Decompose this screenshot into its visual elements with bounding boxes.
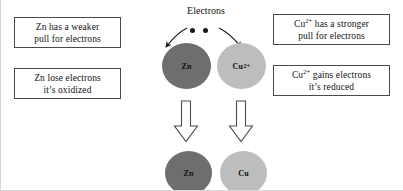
textbox-line: Zn has a weaker (36, 21, 99, 33)
textbox-zn-lose-electrons: Zn lose electrons it’s oxidized (14, 68, 121, 99)
circle-zn-ion-top: Zn (162, 43, 211, 89)
textbox-line: it’s reduced (309, 81, 354, 93)
textbox-formula: Cu (294, 19, 305, 29)
textbox-text: gains electrons (310, 70, 371, 80)
textbox-line: pull for electrons (298, 30, 365, 42)
electrons-label: Electrons (168, 5, 244, 16)
textbox-line: Cu2+ gains electrons (292, 69, 371, 81)
textbox-line: pull for electrons (34, 33, 101, 45)
textbox-text: has a stronger (312, 19, 369, 29)
textbox-line: Cu2+ has a stronger (294, 18, 369, 30)
atom-label: Cu (238, 169, 249, 178)
textbox-line: it’s oxidized (43, 84, 91, 96)
down-block-arrow-zn (173, 100, 199, 143)
textbox-formula: Cu (292, 70, 303, 80)
textbox-line: Zn lose electrons (34, 72, 101, 84)
textbox-cu-stronger-pull: Cu2+ has a stronger pull for electrons (273, 14, 390, 45)
atom-label: Zn (181, 62, 191, 71)
circle-cu-metal: Cu (220, 151, 267, 191)
atom-label: Zn (183, 169, 193, 178)
textbox-cu-gains-electrons: Cu2+ gains electrons it’s reduced (273, 65, 390, 96)
circle-zn-metal: Zn (165, 151, 212, 191)
diagram-canvas: Electrons Zn Cu2+ Zn Cu Zn has a weaker … (0, 0, 403, 191)
circle-cu-ion-top: Cu2+ (217, 43, 266, 89)
textbox-zn-weaker-pull: Zn has a weaker pull for electrons (14, 17, 121, 48)
atom-label: Cu (233, 62, 244, 71)
down-block-arrow-cu (228, 100, 254, 143)
